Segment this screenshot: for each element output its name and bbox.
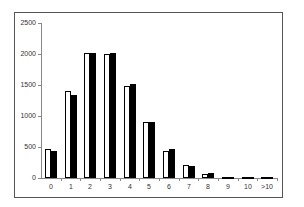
y-tick — [38, 116, 41, 117]
x-tick-label: 1 — [61, 183, 81, 190]
y-tick-label: 1500 — [6, 81, 36, 88]
bar-black-1 — [71, 95, 77, 178]
y-tick-label: 0 — [6, 174, 36, 181]
bar-black-2 — [90, 53, 96, 178]
x-tick-label: 6 — [159, 183, 179, 190]
x-tick — [80, 178, 81, 181]
y-tick — [38, 23, 41, 24]
x-tick-label: 4 — [120, 183, 140, 190]
y-tick-label: 2500 — [6, 19, 36, 26]
bar-black-8 — [208, 173, 214, 178]
x-tick — [277, 178, 278, 181]
y-tick — [38, 178, 41, 179]
y-axis — [41, 23, 42, 179]
bar-black-6 — [169, 149, 175, 178]
x-tick — [61, 178, 62, 181]
bar-black-5 — [149, 122, 155, 178]
bar-black-7 — [189, 166, 195, 178]
x-tick — [179, 178, 180, 181]
bar-black-4 — [130, 84, 136, 178]
x-tick — [257, 178, 258, 181]
y-tick — [38, 54, 41, 55]
x-tick-label: 8 — [198, 183, 218, 190]
x-tick — [218, 178, 219, 181]
bar-black-10 — [248, 177, 254, 179]
x-tick — [159, 178, 160, 181]
x-tick-label: 7 — [179, 183, 199, 190]
x-tick — [120, 178, 121, 181]
y-tick — [38, 147, 41, 148]
y-tick-label: 1000 — [6, 112, 36, 119]
x-tick-label: >10 — [257, 183, 277, 190]
y-tick-label: 500 — [6, 143, 36, 150]
x-tick — [198, 178, 199, 181]
x-tick — [100, 178, 101, 181]
y-tick — [38, 85, 41, 86]
bar-black-3 — [110, 53, 116, 178]
x-tick-label: 5 — [139, 183, 159, 190]
x-tick-label: 10 — [238, 183, 258, 190]
x-tick-label: 2 — [80, 183, 100, 190]
bar-black-9 — [228, 177, 234, 179]
x-tick-label: 9 — [218, 183, 238, 190]
bar-black-0 — [51, 151, 57, 178]
bar-black->10 — [267, 177, 273, 179]
x-tick — [238, 178, 239, 181]
x-tick — [139, 178, 140, 181]
y-tick-label: 2000 — [6, 50, 36, 57]
x-tick-label: 0 — [41, 183, 61, 190]
x-tick-label: 3 — [100, 183, 120, 190]
